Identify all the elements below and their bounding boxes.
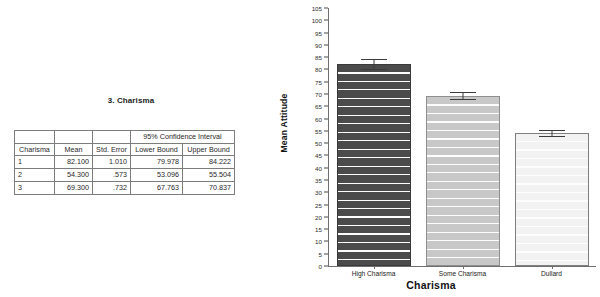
cell-mean: 54.300	[55, 169, 93, 182]
cell-upper-bound: 84.222	[183, 156, 235, 169]
y-axis-tick-label: 105	[284, 5, 322, 12]
plot-area: 1051009590858075706560555045403530252015…	[284, 0, 600, 297]
table-row: 2 54.300 .573 53.096 55.504	[15, 169, 235, 182]
y-axis-tick-mark	[324, 94, 328, 95]
error-bar-line	[373, 59, 374, 69]
header-spacer-mean	[55, 131, 93, 144]
y-axis-tick-label: 70	[284, 91, 322, 98]
x-axis-tick-label: Dullard	[497, 270, 600, 277]
cell-charisma: 2	[15, 169, 55, 182]
bar-chart-panel: Mean Attitude Charisma 10510095908580757…	[262, 0, 600, 297]
table-title: 3. Charisma	[0, 96, 262, 105]
cell-charisma: 1	[15, 156, 55, 169]
error-bar	[450, 92, 476, 100]
y-axis-tick-mark	[324, 57, 328, 58]
bar-dullard	[515, 133, 589, 266]
cell-mean: 82.100	[55, 156, 93, 169]
y-axis-tick-label: 40	[284, 164, 322, 171]
y-axis-tick-mark	[324, 266, 328, 267]
y-axis-tick-label: 55	[284, 127, 322, 134]
table-row: 1 82.100 1.010 79.978 84.222	[15, 156, 235, 169]
table-row: 3 69.300 .732 67.763 70.837	[15, 181, 235, 194]
table-header-row-columns: Charisma Mean Std. Error Lower Bound Upp…	[15, 143, 235, 156]
y-axis-tick-label: 65	[284, 103, 322, 110]
y-axis-tick-label: 25	[284, 201, 322, 208]
y-axis-tick-mark	[324, 69, 328, 70]
y-axis-tick-label: 30	[284, 189, 322, 196]
y-axis-tick-mark	[324, 44, 328, 45]
error-bar-line	[462, 92, 463, 100]
y-axis-line	[328, 8, 329, 266]
x-axis-tick-mark	[463, 266, 464, 269]
error-bar	[539, 130, 565, 136]
cell-lower-bound: 53.096	[131, 169, 183, 182]
bar-high-charisma	[337, 64, 411, 266]
y-axis-tick-mark	[324, 204, 328, 205]
error-bar-cap-upper	[539, 130, 565, 131]
y-axis-tick-mark	[324, 241, 328, 242]
y-axis-tick-label: 80	[284, 66, 322, 73]
cell-lower-bound: 79.978	[131, 156, 183, 169]
y-axis-tick-label: 5	[284, 250, 322, 257]
error-bar	[361, 59, 387, 69]
header-upper-bound: Upper Bound	[183, 143, 235, 156]
header-spacer-charisma	[15, 131, 55, 144]
y-axis-tick-label: 15	[284, 226, 322, 233]
y-axis-tick-mark	[324, 20, 328, 21]
bar-some-charisma	[426, 96, 500, 266]
header-mean: Mean	[55, 143, 93, 156]
error-bar-cap-upper	[450, 92, 476, 93]
cell-mean: 69.300	[55, 181, 93, 194]
y-axis-tick-label: 50	[284, 140, 322, 147]
header-std-error: Std. Error	[93, 143, 131, 156]
error-bar-cap-lower	[450, 99, 476, 100]
cell-upper-bound: 70.837	[183, 181, 235, 194]
header-spacer-stderror	[93, 131, 131, 144]
y-axis-tick-label: 45	[284, 152, 322, 159]
statistics-table: 95% Confidence Interval Charisma Mean St…	[14, 130, 235, 195]
error-bar-cap-lower	[361, 69, 387, 70]
cell-lower-bound: 67.763	[131, 181, 183, 194]
estimated-means-table-panel: 3. Charisma Measure: MEASURE_1 95% Confi…	[0, 0, 262, 297]
y-axis-tick-mark	[324, 8, 328, 9]
y-axis-tick-label: 60	[284, 115, 322, 122]
y-axis-tick-mark	[324, 180, 328, 181]
cell-charisma: 3	[15, 181, 55, 194]
error-bar-cap-lower	[539, 136, 565, 137]
y-axis-tick-label: 75	[284, 78, 322, 85]
y-axis-tick-mark	[324, 192, 328, 193]
y-axis-tick-mark	[324, 81, 328, 82]
x-axis-tick-mark	[374, 266, 375, 269]
y-axis-tick-label: 95	[284, 29, 322, 36]
cell-std-error: .732	[93, 181, 131, 194]
y-axis-tick-label: 90	[284, 41, 322, 48]
y-axis-tick-mark	[324, 216, 328, 217]
error-bar-cap-upper	[361, 59, 387, 60]
y-axis-tick-mark	[324, 130, 328, 131]
table-header-row-group: 95% Confidence Interval	[15, 131, 235, 144]
y-axis-tick-mark	[324, 143, 328, 144]
cell-std-error: 1.010	[93, 156, 131, 169]
y-axis-tick-label: 100	[284, 17, 322, 24]
cell-upper-bound: 55.504	[183, 169, 235, 182]
cell-std-error: .573	[93, 169, 131, 182]
header-lower-bound: Lower Bound	[131, 143, 183, 156]
y-axis-tick-label: 85	[284, 54, 322, 61]
y-axis-tick-label: 35	[284, 177, 322, 184]
y-axis-tick-mark	[324, 155, 328, 156]
y-axis-tick-mark	[324, 229, 328, 230]
y-axis-tick-mark	[324, 253, 328, 254]
x-axis-tick-mark	[552, 266, 553, 269]
y-axis-tick-mark	[324, 118, 328, 119]
y-axis-tick-label: 10	[284, 238, 322, 245]
y-axis-tick-mark	[324, 167, 328, 168]
header-confidence-interval: 95% Confidence Interval	[131, 131, 235, 144]
header-charisma: Charisma	[15, 143, 55, 156]
y-axis-tick-mark	[324, 106, 328, 107]
y-axis-tick-label: 20	[284, 213, 322, 220]
y-axis-tick-mark	[324, 32, 328, 33]
y-axis-tick-label: 0	[284, 263, 322, 270]
